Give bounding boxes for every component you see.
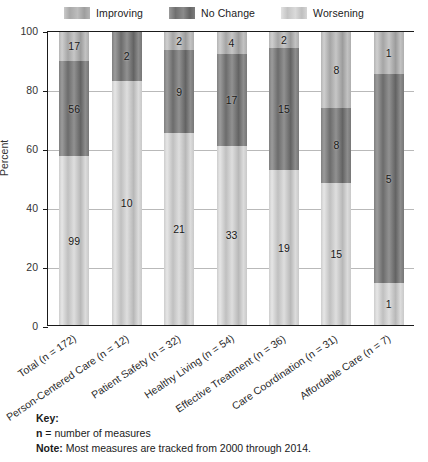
segment-no-change[interactable]: 8 — [321, 108, 351, 184]
key-note-text: Most measures are tracked from 2000 thro… — [63, 442, 311, 454]
bar-column[interactable]: 210 — [112, 32, 142, 325]
y-axis-tick — [43, 327, 48, 328]
y-axis-tick-label: 20 — [4, 261, 38, 273]
legend-swatch-no-change-icon — [169, 7, 195, 19]
y-axis-tick-label: 100 — [4, 25, 38, 37]
segment-worsening[interactable]: 19 — [269, 170, 299, 325]
key-title: Key: — [36, 412, 59, 424]
x-axis-category-label: Patient Safety (n = 32) — [89, 332, 183, 401]
segment-value-label: 21 — [173, 223, 185, 235]
x-axis-category-label: Effective Treatment (n = 36) — [173, 332, 287, 414]
segment-worsening[interactable]: 10 — [112, 81, 142, 325]
segment-value-label: 8 — [333, 64, 339, 76]
y-axis-tick-label: 80 — [4, 84, 38, 96]
segment-no-change[interactable]: 15 — [269, 48, 299, 170]
bar-column[interactable]: 2921 — [164, 32, 194, 325]
bar-column[interactable]: 175699 — [59, 32, 89, 325]
legend-label-improving: Improving — [96, 7, 143, 19]
bar-column[interactable]: 41733 — [217, 32, 247, 325]
segment-value-label: 5 — [386, 173, 392, 185]
key-note-label: Note: — [36, 442, 63, 454]
x-axis-category-label: Affordable Care (n = 7) — [297, 332, 392, 402]
segment-value-label: 17 — [226, 94, 238, 106]
segment-value-label: 1 — [386, 47, 392, 59]
segment-improving[interactable]: 2 — [269, 32, 299, 48]
key-note-block: Key: n = number of measures Note: Most m… — [36, 411, 406, 456]
legend-label-worsening: Worsening — [313, 7, 364, 19]
segment-worsening[interactable]: 33 — [217, 146, 247, 325]
segment-worsening[interactable]: 1 — [374, 283, 404, 325]
y-axis-tick-label: 0 — [4, 320, 38, 332]
segment-value-label: 2 — [176, 35, 182, 47]
segment-no-change[interactable]: 56 — [59, 61, 89, 156]
segment-improving[interactable]: 1 — [374, 32, 404, 74]
bar-column[interactable]: 8815 — [321, 32, 351, 325]
key-n-definition: = number of measures — [42, 427, 150, 439]
legend-swatch-improving-icon — [64, 7, 90, 19]
y-axis-tick-label: 60 — [4, 143, 38, 155]
segment-value-label: 9 — [176, 86, 182, 98]
segment-worsening[interactable]: 21 — [164, 133, 194, 325]
segment-value-label: 2 — [124, 50, 130, 62]
segment-improving[interactable]: 4 — [217, 32, 247, 54]
x-axis-category-label: Person-Centered Care (n = 12) — [3, 332, 130, 423]
key-n-row: n = number of measures — [36, 426, 406, 441]
segment-value-label: 10 — [121, 197, 133, 209]
y-axis-tick-label: 40 — [4, 202, 38, 214]
segment-value-label: 8 — [333, 139, 339, 151]
segment-worsening[interactable]: 15 — [321, 183, 351, 325]
x-axis-category-label: Total (n = 172) — [16, 332, 79, 380]
segment-value-label: 1 — [386, 298, 392, 310]
segment-value-label: 17 — [68, 40, 80, 52]
segment-value-label: 99 — [68, 235, 80, 247]
key-note-row: Note: Most measures are tracked from 200… — [36, 441, 406, 456]
segment-no-change[interactable]: 5 — [374, 74, 404, 283]
segment-value-label: 4 — [229, 37, 235, 49]
segment-improving[interactable]: 2 — [164, 32, 194, 50]
plot-area: 175699210292141733215198815151 — [47, 31, 414, 326]
segment-no-change[interactable]: 17 — [217, 54, 247, 146]
segment-improving[interactable]: 8 — [321, 32, 351, 108]
legend-item-worsening: Worsening — [281, 7, 364, 19]
bar-column[interactable]: 21519 — [269, 32, 299, 325]
legend-label-no-change: No Change — [201, 7, 255, 19]
segment-value-label: 2 — [281, 34, 287, 46]
bars-layer: 175699210292141733215198815151 — [48, 32, 414, 325]
chart-legend: Improving No Change Worsening — [0, 4, 428, 22]
segment-value-label: 56 — [68, 103, 80, 115]
segment-value-label: 15 — [331, 248, 343, 260]
stacked-bar-chart: Improving No Change Worsening Percent 17… — [0, 0, 428, 462]
segment-value-label: 15 — [278, 103, 290, 115]
legend-item-improving: Improving — [64, 7, 143, 19]
segment-value-label: 19 — [278, 242, 290, 254]
key-title-row: Key: — [36, 411, 406, 426]
legend-item-no-change: No Change — [169, 7, 255, 19]
segment-value-label: 33 — [226, 229, 238, 241]
segment-no-change[interactable]: 2 — [112, 32, 142, 81]
segment-improving[interactable]: 17 — [59, 32, 89, 61]
segment-worsening[interactable]: 99 — [59, 156, 89, 325]
bar-column[interactable]: 151 — [374, 32, 404, 325]
legend-swatch-worsening-icon — [281, 7, 307, 19]
segment-no-change[interactable]: 9 — [164, 50, 194, 132]
x-axis-category-label: Healthy Living (n = 54) — [141, 332, 235, 401]
x-axis-category-label: Care Coordination (n = 31) — [230, 332, 340, 412]
